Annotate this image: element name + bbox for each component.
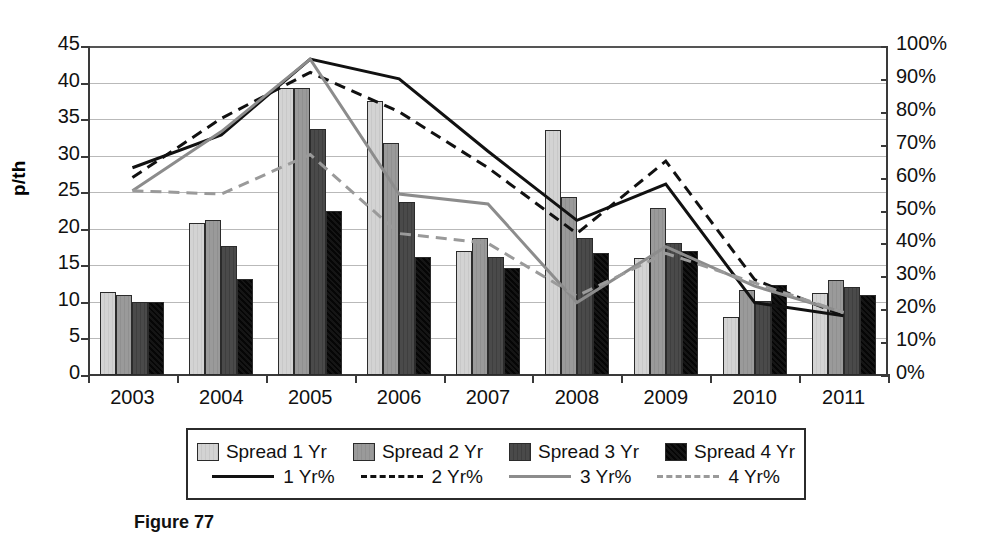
y-axis-right-ticks: 0%10%20%30%40%50%60%70%80%90%100%	[896, 0, 976, 544]
x-axis-tickmark	[888, 374, 890, 383]
y-axis-right-tick-label: 70%	[896, 131, 936, 154]
x-axis-tickmark	[621, 374, 623, 383]
y-axis-right-tick-label: 40%	[896, 229, 936, 252]
x-axis-tickmark	[444, 374, 446, 383]
legend-line-icon-2-yr-pct	[361, 475, 423, 478]
legend-item-spread-2-yr: Spread 2 Yr	[353, 441, 483, 463]
y-axis-left-tick-label: 15	[32, 251, 80, 274]
y-axis-left-tickmark	[81, 375, 88, 377]
chart-legend: Spread 1 Yr Spread 2 Yr Spread 3 Yr Spre…	[186, 428, 806, 500]
legend-swatch-icon-spread-4-yr	[665, 443, 687, 461]
bar-2005-series-3	[310, 129, 326, 375]
bar-2010-series-3	[755, 301, 771, 375]
y-axis-left-tickmark	[81, 119, 88, 121]
bar-series-layer	[88, 46, 888, 375]
bar-2008-series-2	[561, 197, 577, 375]
y-axis-right-tick-label: 20%	[896, 295, 936, 318]
y-axis-left-tickmark	[81, 156, 88, 158]
y-axis-left-tick-label: 20	[32, 215, 80, 238]
legend-item-3-yr-pct: 3 Yr%	[509, 466, 631, 488]
bar-2003-series-2	[116, 295, 132, 375]
bar-2009-series-3	[666, 243, 682, 375]
figure-77-container: p/th 051015202530354045 0%10%20%30%40%50…	[0, 0, 983, 544]
legend-label-spread-4-yr: Spread 4 Yr	[694, 441, 795, 463]
y-axis-right-tickmark	[881, 276, 888, 278]
y-axis-right-tickmark	[881, 375, 888, 377]
legend-item-spread-1-yr: Spread 1 Yr	[197, 441, 327, 463]
legend-line-icon-3-yr-pct	[509, 475, 571, 478]
bar-2005-series-2	[294, 88, 310, 375]
bar-2004-series-3	[221, 246, 237, 375]
legend-item-1-yr-pct: 1 Yr%	[212, 466, 334, 488]
bar-2011-series-4	[860, 295, 876, 375]
legend-label-4-yr-pct: 4 Yr%	[728, 466, 779, 488]
bar-2009-series-2	[650, 208, 666, 375]
x-axis-label-2006: 2006	[355, 386, 444, 409]
bar-2007-series-3	[488, 257, 504, 375]
y-axis-left-title: p/th	[8, 160, 30, 196]
bar-2009-series-4	[682, 251, 698, 375]
y-axis-left-tickmark	[81, 302, 88, 304]
y-axis-right-tick-label: 10%	[896, 328, 936, 351]
y-axis-left-tickmark	[81, 83, 88, 85]
y-axis-right-tickmark	[881, 145, 888, 147]
y-axis-right-tickmark	[881, 178, 888, 180]
x-axis-label-2005: 2005	[266, 386, 355, 409]
bar-2011-series-1	[812, 293, 828, 375]
y-axis-right-tickmark	[881, 79, 888, 81]
bar-2009-series-1	[634, 258, 650, 375]
y-axis-right-tick-label: 90%	[896, 65, 936, 88]
legend-row-lines: 1 Yr% 2 Yr% 3 Yr% 4 Yr%	[188, 466, 804, 488]
bar-2007-series-4	[504, 268, 520, 375]
y-axis-left-tick-label: 10	[32, 288, 80, 311]
legend-item-spread-4-yr: Spread 4 Yr	[665, 441, 795, 463]
legend-swatch-icon-spread-2-yr	[353, 443, 375, 461]
x-axis-label-2010: 2010	[710, 386, 799, 409]
x-axis-tickmark	[266, 374, 268, 383]
y-axis-left-tickmark	[81, 229, 88, 231]
y-axis-right-tickmark	[881, 211, 888, 213]
figure-caption: Figure 77	[134, 512, 214, 533]
y-axis-right-tick-label: 0%	[896, 361, 925, 384]
bar-2011-series-3	[844, 287, 860, 375]
bar-2004-series-4	[237, 279, 253, 375]
y-axis-left-tick-label: 35	[32, 105, 80, 128]
x-axis-label-2003: 2003	[88, 386, 177, 409]
x-axis-label-2004: 2004	[177, 386, 266, 409]
y-axis-left-tickmark	[81, 338, 88, 340]
bar-2011-series-2	[828, 280, 844, 375]
y-axis-right-tickmark	[881, 243, 888, 245]
y-axis-left-tickmark	[81, 265, 88, 267]
y-axis-left-tickmark	[81, 46, 88, 48]
x-axis-tickmark	[177, 374, 179, 383]
y-axis-right-tickmark	[881, 342, 888, 344]
y-axis-left-ticks: 051015202530354045	[32, 0, 80, 544]
y-axis-right-tick-label: 80%	[896, 98, 936, 121]
legend-item-spread-3-yr: Spread 3 Yr	[509, 441, 639, 463]
y-axis-right-tickmark	[881, 112, 888, 114]
y-axis-left-tick-label: 45	[32, 32, 80, 55]
y-axis-left-tick-label: 40	[32, 69, 80, 92]
legend-item-2-yr-pct: 2 Yr%	[361, 466, 483, 488]
bar-2003-series-4	[148, 302, 164, 375]
bar-2004-series-1	[189, 223, 205, 375]
y-axis-right-tickmark	[881, 46, 888, 48]
bar-2007-series-1	[456, 251, 472, 375]
y-axis-left-tick-label: 30	[32, 142, 80, 165]
x-axis-tickmark	[532, 374, 534, 383]
y-axis-left-tick-label: 5	[32, 324, 80, 347]
x-axis-tickmark	[355, 374, 357, 383]
bar-2003-series-1	[100, 292, 116, 375]
bar-2005-series-4	[326, 211, 342, 375]
bar-2004-series-2	[205, 220, 221, 375]
bar-2010-series-1	[723, 317, 739, 375]
legend-label-spread-2-yr: Spread 2 Yr	[382, 441, 483, 463]
bar-2006-series-1	[367, 101, 383, 375]
legend-swatch-icon-spread-1-yr	[197, 443, 219, 461]
bar-2010-series-2	[739, 290, 755, 375]
legend-label-1-yr-pct: 1 Yr%	[283, 466, 334, 488]
bar-2005-series-1	[278, 88, 294, 375]
bar-2007-series-2	[472, 238, 488, 375]
x-axis-tickmark	[710, 374, 712, 383]
x-axis-label-2007: 2007	[444, 386, 533, 409]
